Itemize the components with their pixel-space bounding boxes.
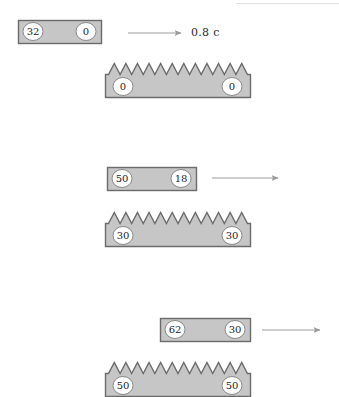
clock-reading: 0 xyxy=(229,81,235,92)
comb-clock-left: 50 xyxy=(113,377,133,395)
clock-reading: 32 xyxy=(27,26,40,37)
moving-rod-3: 6230 xyxy=(161,319,251,342)
comb-clock-left: 30 xyxy=(113,227,133,245)
rod-clock-left: 62 xyxy=(165,321,185,339)
clock-reading: 62 xyxy=(169,324,182,335)
diagram-canvas: 32050186230 0030305050 xyxy=(0,0,339,397)
clock-reading: 18 xyxy=(175,173,188,184)
combs-layer: 0030305050 xyxy=(106,64,251,397)
relativity-figure: 32050186230 0030305050 0.8 c xyxy=(0,0,339,397)
rod-clock-left: 50 xyxy=(112,170,132,188)
comb-clock-right: 0 xyxy=(222,78,242,96)
rod-clock-right: 18 xyxy=(171,170,191,188)
comb-clock-right: 30 xyxy=(222,227,242,245)
clock-reading: 30 xyxy=(117,230,130,241)
speed-label: 0.8 c xyxy=(191,26,220,39)
rod-clock-right: 30 xyxy=(225,321,245,339)
moving-rod-2: 5018 xyxy=(108,168,197,191)
clock-reading: 0 xyxy=(83,26,89,37)
clock-reading: 0 xyxy=(120,81,126,92)
moving-rod-1: 320 xyxy=(19,21,102,44)
clock-reading: 30 xyxy=(226,230,239,241)
comb-clock-right: 50 xyxy=(222,377,242,395)
clock-reading: 50 xyxy=(116,173,129,184)
rod-clock-right: 0 xyxy=(76,23,96,41)
scan-artifact-line xyxy=(236,3,339,4)
lattice-comb-2: 3030 xyxy=(106,213,251,247)
lattice-comb-3: 5050 xyxy=(106,363,251,397)
rod-clock-left: 32 xyxy=(23,23,43,41)
clock-reading: 50 xyxy=(226,380,239,391)
comb-clock-left: 0 xyxy=(113,78,133,96)
lattice-comb-1: 00 xyxy=(106,64,251,98)
clock-reading: 30 xyxy=(229,324,242,335)
clock-reading: 50 xyxy=(117,380,130,391)
